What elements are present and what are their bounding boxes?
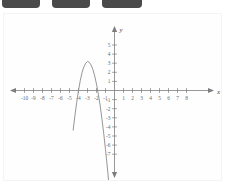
y-tick-label: -6: [106, 142, 111, 148]
plot-svg: -10-9-8-7-6-5-4-3-2-11234567854321-1-2-3…: [0, 0, 225, 182]
x-tick-label: -9: [31, 95, 36, 101]
y-tick-label: 4: [108, 51, 111, 57]
x-tick-label: -7: [49, 95, 54, 101]
y-tick-label: -4: [106, 124, 111, 130]
y-axis-arrow-bottom: [112, 172, 117, 178]
parabola-curve: [73, 61, 123, 182]
x-tick-label: 7: [176, 95, 179, 101]
y-tick-label: -2: [106, 106, 111, 112]
y-tick-label: -7: [106, 151, 111, 157]
x-tick-label: -5: [67, 95, 72, 101]
graph-screenshot: -10-9-8-7-6-5-4-3-2-11234567854321-1-2-3…: [0, 0, 225, 182]
y-tick-label: 1: [108, 78, 111, 84]
x-tick-label: 4: [149, 95, 152, 101]
y-tick-label: 3: [108, 60, 111, 66]
y-axis-label: y: [119, 26, 124, 34]
y-axis-arrow-top: [112, 26, 117, 32]
x-tick-label: 5: [158, 95, 161, 101]
y-tick-label: -5: [106, 133, 111, 139]
x-tick-label: 6: [167, 95, 170, 101]
y-tick-label: -1: [106, 97, 111, 103]
y-tick-label: 5: [108, 42, 111, 48]
x-tick-label: 8: [185, 95, 188, 101]
x-tick-label: -8: [40, 95, 45, 101]
x-tick-label: -6: [58, 95, 63, 101]
x-tick-label: -3: [85, 95, 90, 101]
x-axis-arrow-right: [208, 88, 214, 93]
y-tick-label: 2: [108, 69, 111, 75]
x-tick-label: 2: [131, 95, 134, 101]
x-axis-label: x: [216, 88, 221, 96]
x-tick-label: 1: [122, 95, 125, 101]
y-tick-label: -3: [106, 115, 111, 121]
coordinate-plane: -10-9-8-7-6-5-4-3-2-11234567854321-1-2-3…: [0, 0, 225, 182]
x-tick-label: 3: [140, 95, 143, 101]
x-axis-arrow-left: [10, 88, 16, 93]
x-tick-label: -10: [21, 95, 28, 101]
